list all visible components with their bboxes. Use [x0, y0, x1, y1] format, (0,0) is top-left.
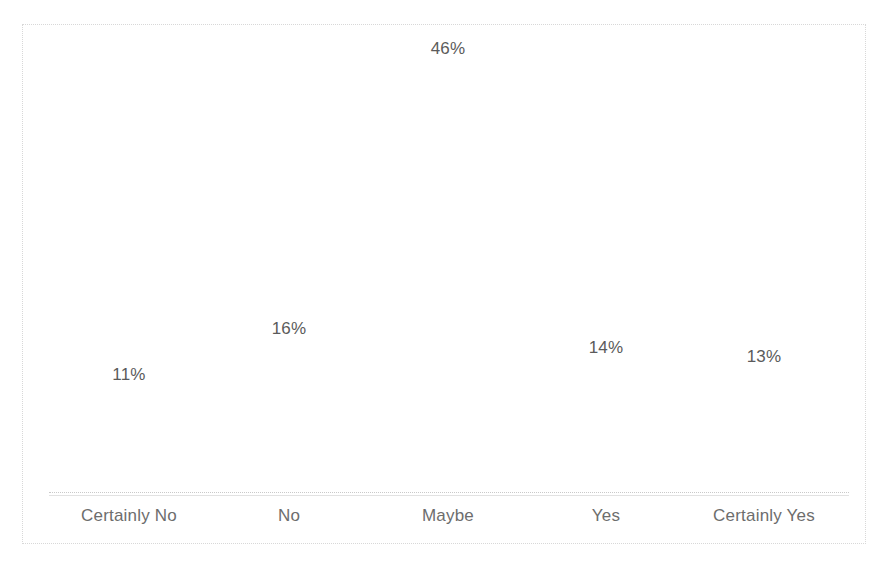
chart-frame: 11% 16% 46% 14% 13% Certainly No No: [22, 24, 866, 544]
bar-slot-yes[interactable]: 14%: [527, 26, 685, 492]
category-label-certainly-yes: Certainly Yes: [713, 506, 815, 525]
value-label-yes: 14%: [527, 339, 685, 356]
value-label-certainly-yes: 13%: [685, 348, 843, 365]
value-label-no: 16%: [210, 320, 368, 337]
bar-certainly-yes[interactable]: [716, 371, 812, 492]
value-label-certainly-no: 11%: [50, 366, 208, 383]
category-label-no: No: [278, 506, 300, 525]
bar-yes[interactable]: [558, 362, 654, 492]
category-tick-certainly-yes[interactable]: Certainly Yes: [664, 507, 864, 525]
bar-slot-maybe[interactable]: 46%: [369, 26, 527, 492]
bar-slot-certainly-yes[interactable]: 13%: [685, 26, 843, 492]
bar-slot-certainly-no[interactable]: 11%: [50, 26, 208, 492]
bar-no[interactable]: [241, 343, 337, 492]
category-axis-line: [49, 492, 849, 493]
bar-maybe[interactable]: [400, 63, 496, 492]
bar-slot-no[interactable]: 16%: [210, 26, 368, 492]
value-label-maybe: 46%: [369, 40, 527, 57]
bar-certainly-no[interactable]: [81, 389, 177, 492]
category-label-maybe: Maybe: [422, 506, 474, 525]
category-axis-line-shadow: [49, 495, 849, 496]
plot-area: 11% 16% 46% 14% 13%: [49, 26, 849, 492]
category-label-yes: Yes: [592, 506, 620, 525]
category-label-certainly-no: Certainly No: [81, 506, 177, 525]
category-axis: Certainly No No Maybe Yes Certainly Yes: [49, 507, 849, 541]
